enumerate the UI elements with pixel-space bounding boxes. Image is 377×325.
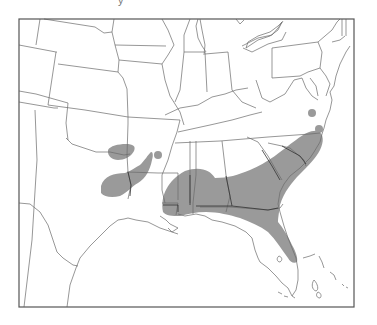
virginia-dot: [308, 109, 316, 117]
north-carolina-coast-dot: [315, 125, 323, 133]
range-areas: [101, 109, 323, 263]
arkansas-dot: [154, 151, 162, 159]
southeast-main-range: [162, 131, 322, 263]
oklahoma-red-river-patch: [108, 144, 135, 160]
range-map: [0, 0, 377, 325]
